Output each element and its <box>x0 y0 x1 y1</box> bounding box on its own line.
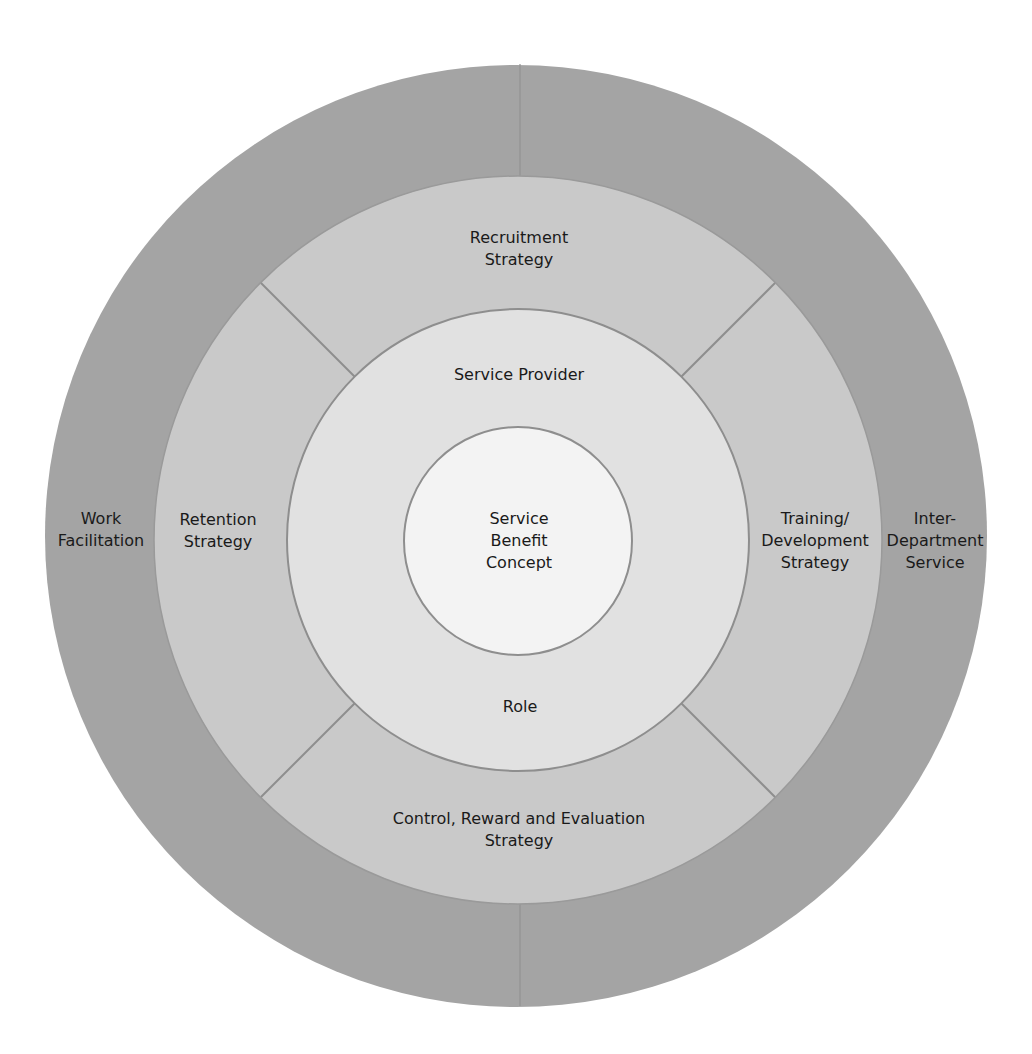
label-recruitment-strategy: Recruitment Strategy <box>470 227 568 271</box>
label-role: Role <box>503 696 537 718</box>
label-training-development-strategy: Training/ Development Strategy <box>761 508 869 574</box>
label-inter-department-service: Inter- Department Service <box>887 508 984 574</box>
label-retention-strategy: Retention Strategy <box>179 509 256 553</box>
label-service-benefit-concept: Service Benefit Concept <box>486 508 552 574</box>
label-control-reward-evaluation-strategy: Control, Reward and Evaluation Strategy <box>393 808 645 852</box>
label-service-provider: Service Provider <box>454 364 584 386</box>
label-work-facilitation: Work Facilitation <box>58 508 144 552</box>
